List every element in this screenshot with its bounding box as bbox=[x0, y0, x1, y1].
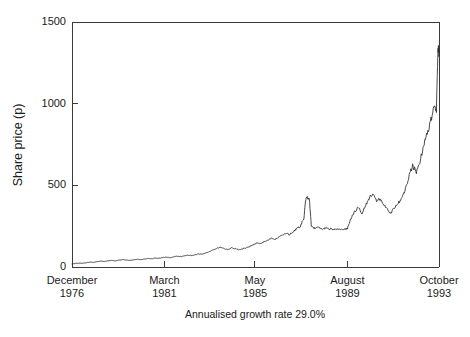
y-axis-tick-labels: 050010001500 bbox=[42, 15, 66, 272]
x-axis-tick-label-month: March bbox=[149, 274, 180, 286]
x-axis-tick-label-year: 1981 bbox=[152, 287, 176, 299]
share-price-line-chart: 050010001500 December1976March1981May198… bbox=[0, 0, 470, 337]
x-axis-ticks bbox=[72, 261, 439, 267]
x-axis-tick-label-year: 1976 bbox=[60, 287, 84, 299]
y-axis-tick-label: 500 bbox=[48, 178, 66, 190]
x-axis-tick-label-year: 1993 bbox=[427, 287, 451, 299]
x-axis-tick-label-year: 1985 bbox=[243, 287, 267, 299]
plot-frame bbox=[72, 22, 439, 267]
series-group bbox=[72, 45, 439, 263]
y-axis-tick-label: 1000 bbox=[42, 97, 66, 109]
x-axis-tick-label-month: October bbox=[419, 274, 458, 286]
y-axis-tick-label: 0 bbox=[60, 260, 66, 272]
x-axis-tick-label-month: December bbox=[47, 274, 98, 286]
x-axis-tick-labels: December1976March1981May1985August1989Oc… bbox=[47, 274, 459, 299]
y-axis-tick-label: 1500 bbox=[42, 15, 66, 27]
y-axis-ticks bbox=[72, 22, 78, 267]
y-axis-title: Share price (p) bbox=[11, 104, 25, 187]
chart-caption: Annualised growth rate 29.0% bbox=[185, 308, 325, 320]
chart-figure: 050010001500 December1976March1981May198… bbox=[0, 0, 470, 337]
x-axis-tick-label-month: May bbox=[245, 274, 266, 286]
x-axis-tick-label-month: August bbox=[330, 274, 364, 286]
x-axis-tick-label-year: 1989 bbox=[335, 287, 359, 299]
